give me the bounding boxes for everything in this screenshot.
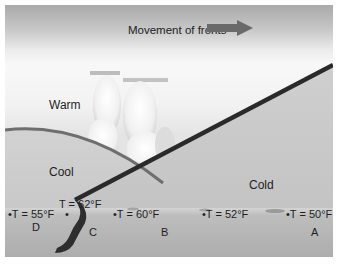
station-temp-a: •T = 50°F [286,209,332,220]
cold-label: Cold [249,179,274,191]
station-label-b: B [161,227,168,238]
station-label-d: D [32,222,40,233]
cool-label: Cool [49,166,74,178]
station-temp-d: •T = 55°F [8,209,54,220]
station-temp-unlabeled: •T = 52°F [202,209,248,220]
warm-label: Warm [49,99,81,111]
station-label-c: C [89,227,97,238]
station-label-a: A [311,227,318,238]
right-arrow-icon [207,20,253,36]
station-dot-c: • [65,209,69,220]
station-temp-b: •T = 60°F [113,209,159,220]
fronts-diagram: Movement of fronts Warm Cool Cold •T = 5… [5,5,333,257]
